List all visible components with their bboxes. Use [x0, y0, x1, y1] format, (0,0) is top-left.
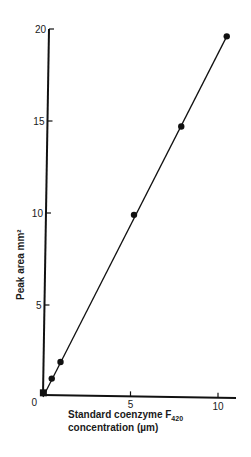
y-tick-label: 0	[31, 397, 37, 408]
data-point	[57, 359, 63, 365]
axis-titles: Peak area mm² Standard coenzyme F420 con…	[15, 229, 183, 433]
data-point	[224, 33, 230, 39]
x-axis-title-line2: concentration (µm)	[68, 422, 158, 433]
axes	[43, 29, 236, 398]
y-tick-label: 5	[36, 300, 42, 311]
x-axis-line	[43, 395, 236, 398]
ticks: 05101520510	[31, 24, 224, 412]
y-tick-label: 15	[33, 116, 45, 127]
y-tick-label: 10	[32, 208, 44, 219]
x-axis-title-subscript: 420	[171, 415, 183, 422]
y-tick-label: 20	[35, 24, 47, 35]
data-point	[178, 123, 184, 129]
y-axis-title: Peak area mm²	[15, 229, 26, 300]
data-point	[49, 375, 55, 381]
data-point	[131, 212, 137, 218]
chart: 05101520510 Peak area mm² Standard coenz…	[0, 0, 251, 457]
x-tick-label: 10	[212, 401, 224, 412]
x-axis-title-main: Standard coenzyme F	[68, 409, 171, 420]
data-point	[40, 389, 47, 396]
x-axis-title-line1: Standard coenzyme F420	[68, 409, 183, 422]
data-points	[40, 33, 230, 396]
y-axis-line	[43, 29, 49, 395]
